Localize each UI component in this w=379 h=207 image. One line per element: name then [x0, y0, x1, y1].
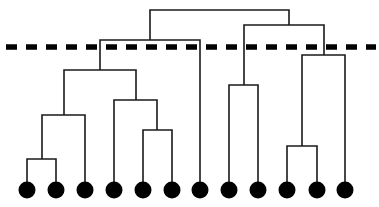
leaf-7-node — [192, 182, 209, 199]
branch-m-12-3 — [42, 115, 85, 190]
leaf-5-node — [135, 182, 152, 199]
leaf-12-node — [337, 182, 354, 199]
leaf-9-node — [250, 182, 267, 199]
branch-m-1011-12 — [302, 55, 345, 190]
leaf-2-node — [48, 182, 65, 199]
dendrogram-branches — [27, 10, 345, 190]
branch-m-4-56 — [114, 100, 157, 190]
branch-m-123-456 — [64, 70, 136, 115]
dendrogram-leaves — [19, 182, 354, 199]
leaf-3-node — [77, 182, 94, 199]
leaf-1-node — [19, 182, 36, 199]
leaf-10-node — [279, 182, 296, 199]
leaf-11-node — [309, 182, 326, 199]
leaf-4-node — [106, 182, 123, 199]
dendrogram — [0, 0, 379, 207]
leaf-6-node — [164, 182, 181, 199]
leaf-8-node — [221, 182, 238, 199]
branch-m-left-7 — [100, 40, 200, 190]
branch-m-5-6 — [143, 130, 172, 190]
branch-m-8-9 — [229, 85, 258, 190]
